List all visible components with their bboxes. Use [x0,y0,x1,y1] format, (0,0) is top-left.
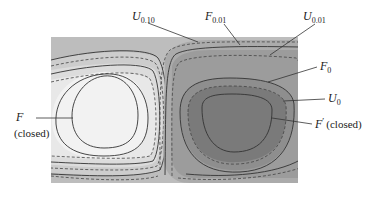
svg-text:U0.01: U0.01 [303,9,326,25]
svg-text:F′(closed): F′(closed) [314,116,362,131]
left-cell [40,51,169,180]
svg-text:F0: F0 [319,59,331,75]
right-band-4 [188,86,286,162]
svg-text:U0: U0 [328,91,341,107]
right-cell [160,40,300,183]
svg-text:F0.01: F0.01 [204,9,226,25]
svg-text:U0.10: U0.10 [132,9,155,25]
contour-diagram: U0.10 F0.01 U0.01 F0 U0 F′(closed) F (cl… [0,0,368,208]
svg-text:F: F [15,110,24,124]
svg-text:(closed): (closed) [14,127,50,140]
